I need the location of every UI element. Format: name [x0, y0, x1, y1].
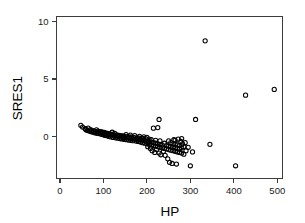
plot-frame [57, 17, 283, 179]
data-point [157, 117, 161, 121]
x-tick-label: 400 [226, 185, 242, 196]
x-tick-label: 200 [139, 185, 155, 196]
y-tick-label: 5 [43, 73, 48, 84]
x-axis-tick-labels: 0100200300400500 [57, 185, 285, 196]
data-point [174, 162, 178, 166]
data-point [272, 87, 276, 91]
x-tick-label: 500 [269, 185, 285, 196]
data-point [186, 145, 190, 149]
x-tick-label: 300 [182, 185, 198, 196]
y-tick-label: 0 [43, 131, 48, 142]
x-tick-label: 0 [57, 185, 62, 196]
data-point [156, 125, 160, 129]
x-axis-title: HP [161, 204, 180, 219]
data-point-series [79, 39, 277, 168]
scatter-plot-figure: 0100200300400500 0510 HP SRES1 [0, 0, 305, 223]
data-point [208, 142, 212, 146]
y-tick-label: 10 [38, 16, 49, 27]
data-point [203, 39, 207, 43]
data-point [190, 150, 194, 154]
plot-canvas: 0100200300400500 0510 HP SRES1 [0, 0, 305, 223]
y-axis-title: SRES1 [10, 76, 25, 120]
data-point [193, 117, 197, 121]
x-tick-label: 100 [96, 185, 112, 196]
data-point [151, 126, 155, 130]
data-point [233, 164, 237, 168]
data-point [188, 164, 192, 168]
data-point [243, 93, 247, 97]
y-axis-tick-labels: 0510 [38, 16, 49, 143]
y-axis-ticks [52, 21, 57, 137]
x-axis-ticks [60, 179, 277, 184]
